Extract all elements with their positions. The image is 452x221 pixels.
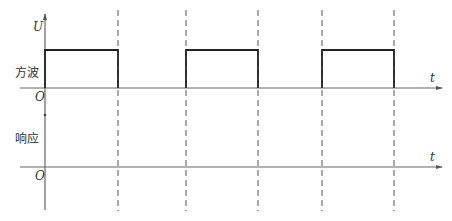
response-label: 响应	[15, 131, 39, 146]
bottom-origin-label: O	[35, 169, 45, 183]
square-wave-pulses	[45, 50, 394, 88]
timing-diagram: U 方波 O t 响应 O t	[0, 0, 452, 221]
square-wave-label: 方波	[15, 65, 39, 80]
top-t-label: t	[430, 71, 435, 85]
dashed-period-markers	[118, 10, 394, 211]
pulse-1	[45, 50, 118, 88]
response-axis-tick	[44, 114, 47, 117]
bottom-t-label: t	[430, 150, 435, 164]
pulse-3	[322, 50, 394, 88]
y-axis-label: U	[33, 20, 44, 34]
pulse-2	[186, 50, 258, 88]
top-origin-label: O	[35, 90, 45, 104]
